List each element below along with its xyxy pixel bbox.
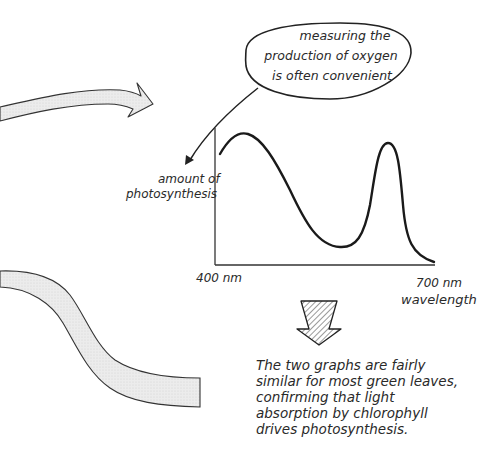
top-flow-arrow-icon: [0, 83, 153, 121]
x-axis-title: wavelength: [401, 293, 477, 306]
bubble-text-line-2: production of oxygen: [256, 50, 406, 63]
y-axis-label-line-2: photosynthesis: [126, 188, 217, 200]
x-axis-end-label: 700 nm: [416, 277, 462, 289]
conclusion-text: The two graphs are fairly similar for mo…: [256, 357, 458, 437]
conclusion-line-4: absorption by chlorophyll: [256, 405, 458, 421]
action-spectrum-curve: [220, 133, 434, 262]
down-arrow-icon: [297, 301, 341, 345]
conclusion-line-5: drives photosynthesis.: [256, 421, 458, 437]
x-axis-start-label: 400 nm: [196, 272, 242, 284]
bubble-text-line-3: is often convenient: [262, 70, 402, 83]
conclusion-line-3: confirming that light: [256, 389, 458, 405]
bottom-flow-band-icon: [0, 271, 200, 407]
conclusion-line-2: similar for most green leaves,: [256, 373, 458, 389]
bubble-text-line-1: measuring the: [290, 30, 400, 43]
conclusion-line-1: The two graphs are fairly: [256, 357, 458, 373]
y-axis-label-line-1: amount of: [158, 173, 220, 185]
